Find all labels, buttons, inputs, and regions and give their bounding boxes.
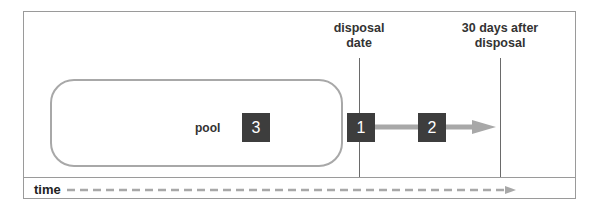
arrows-layer bbox=[0, 0, 600, 212]
box-1: 1 bbox=[347, 113, 375, 142]
time-arrow-icon bbox=[67, 186, 516, 194]
box-3: 3 bbox=[242, 113, 270, 142]
time-label: time bbox=[34, 182, 61, 197]
box-2: 2 bbox=[418, 113, 446, 142]
